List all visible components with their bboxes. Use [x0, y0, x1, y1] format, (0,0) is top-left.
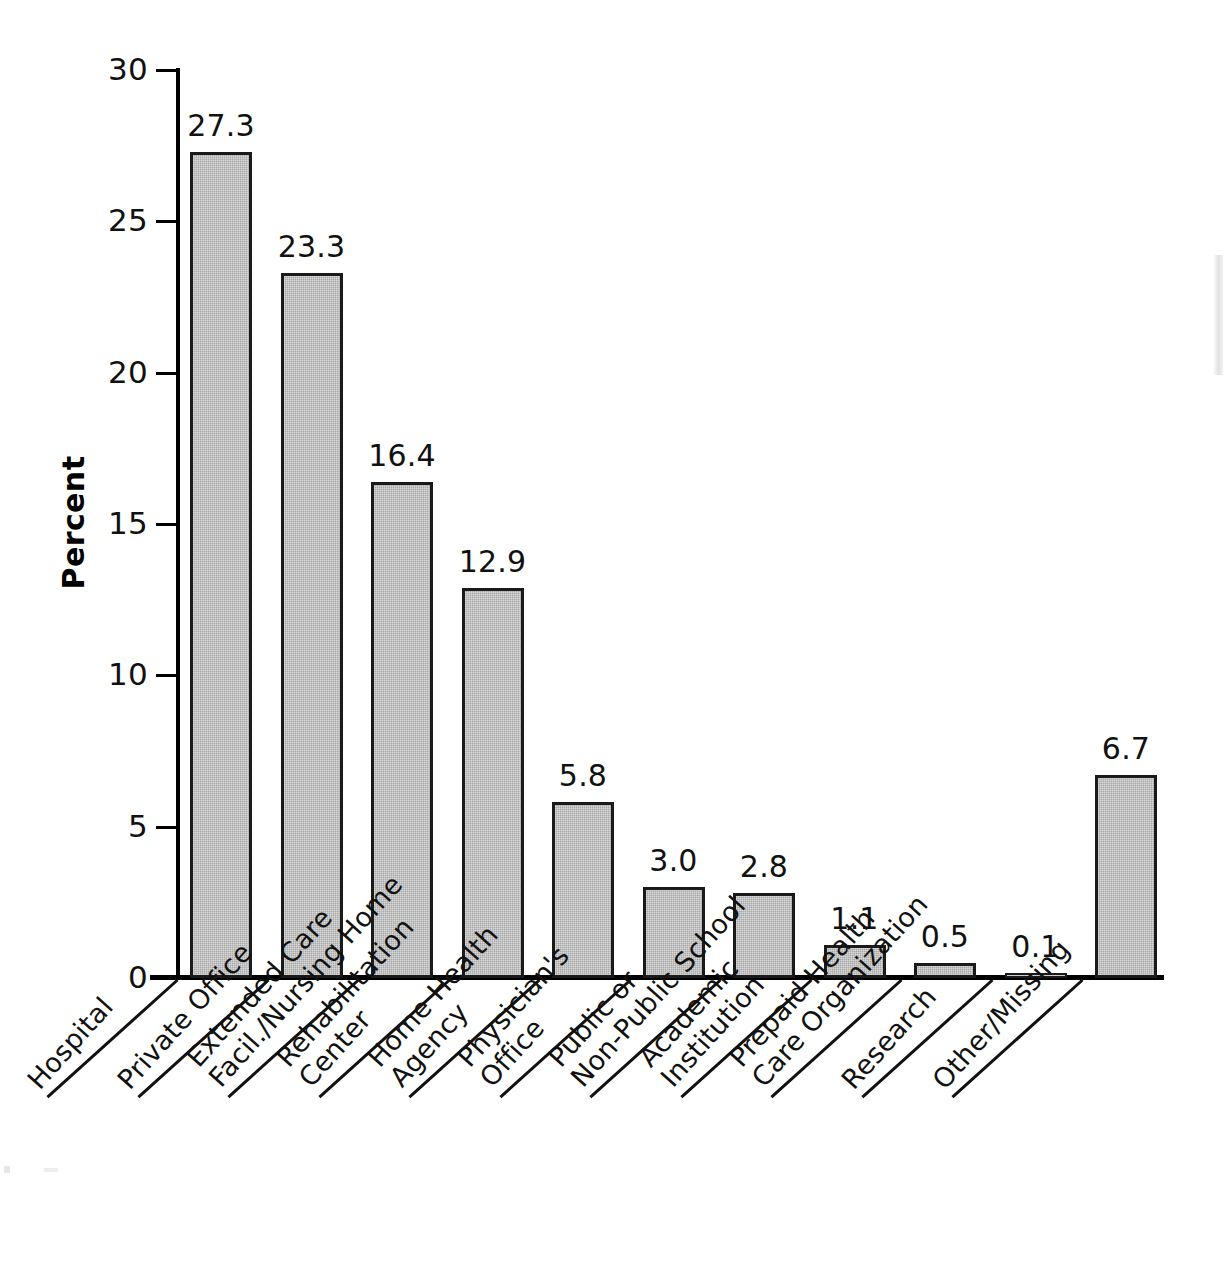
bar-value-label: 2.8 [714, 852, 814, 882]
bar [281, 273, 343, 978]
bar-chart-plot-area: Percent 051015202530 27.323.316.412.95.8… [0, 0, 1227, 1288]
bar-value-label: 5.8 [533, 761, 633, 791]
chart-page: Percent 051015202530 27.323.316.412.95.8… [0, 0, 1227, 1288]
y-axis-tick-30 [156, 69, 178, 72]
y-axis-tick-label-25: 25 [84, 205, 148, 236]
y-axis-tick-25 [156, 220, 178, 223]
y-axis-tick-20 [156, 372, 178, 375]
y-axis-tick-15 [156, 523, 178, 526]
bar [462, 588, 524, 978]
bar [1095, 775, 1157, 978]
y-axis-tick-label-20: 20 [84, 357, 148, 388]
y-axis-tick-label-0: 0 [84, 962, 148, 993]
bar-value-label: 16.4 [352, 441, 452, 471]
y-axis-tick-5 [156, 826, 178, 829]
bar-value-label: 12.9 [443, 547, 543, 577]
bar [190, 152, 252, 978]
y-axis-tick-label-10: 10 [84, 659, 148, 690]
bar-value-label: 23.3 [262, 232, 362, 262]
bar [914, 963, 976, 978]
bar-value-label: 27.3 [171, 111, 271, 141]
y-axis-tick-10 [156, 674, 178, 677]
y-axis-tick-label-5: 5 [84, 811, 148, 842]
y-axis-tick-label-30: 30 [84, 54, 148, 85]
bar-value-label: 6.7 [1076, 734, 1176, 764]
y-axis-tick-label-15: 15 [84, 508, 148, 539]
